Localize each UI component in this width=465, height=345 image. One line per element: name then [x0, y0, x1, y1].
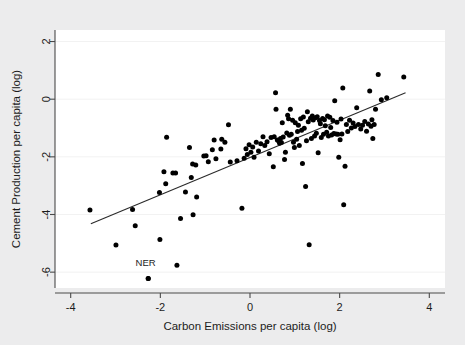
- data-point: [274, 107, 279, 112]
- data-point: [373, 107, 378, 112]
- x-axis-title: Carbon Emissions per capita (log): [163, 320, 336, 332]
- data-point: [379, 97, 384, 102]
- plot-area-background: [55, 30, 445, 288]
- data-point: [254, 140, 259, 145]
- data-point: [194, 194, 199, 199]
- data-point: [163, 181, 168, 186]
- data-point: [248, 150, 253, 155]
- data-point: [332, 98, 337, 103]
- x-axis-ticks: [71, 293, 430, 298]
- data-point: [222, 140, 227, 145]
- chart-figure: 20-2-4-6 -4-2024 NER Carbon Emissions pe…: [0, 0, 465, 345]
- data-point: [133, 223, 138, 228]
- data-point: [339, 132, 344, 137]
- data-point: [178, 216, 183, 221]
- data-point: [323, 123, 328, 128]
- data-point: [344, 122, 349, 127]
- data-point: [164, 135, 169, 140]
- data-point: [305, 109, 310, 114]
- data-point: [367, 89, 372, 94]
- data-point: [157, 237, 162, 242]
- data-point: [300, 161, 305, 166]
- data-point: [370, 136, 375, 141]
- data-point: [345, 129, 350, 134]
- data-point: [354, 105, 359, 110]
- data-point: [218, 147, 223, 152]
- data-point: [173, 170, 178, 175]
- data-point: [187, 145, 192, 150]
- data-point: [292, 145, 297, 150]
- data-point: [340, 85, 345, 90]
- y-axis-tick-labels: 20-2-4-6: [40, 38, 52, 277]
- y-tick-label: 0: [40, 96, 52, 102]
- data-point: [210, 147, 215, 152]
- data-point: [280, 120, 285, 125]
- data-point: [271, 164, 276, 169]
- data-point: [301, 115, 306, 120]
- x-tick-label: -4: [66, 301, 76, 313]
- data-point: [328, 125, 333, 130]
- y-tick-label: -4: [40, 210, 52, 220]
- data-point: [376, 72, 381, 77]
- data-point: [314, 131, 319, 136]
- data-point: [297, 143, 302, 148]
- data-point: [341, 202, 346, 207]
- data-point: [282, 157, 287, 162]
- y-tick-label: -6: [40, 267, 52, 277]
- data-point: [183, 190, 188, 195]
- x-axis-tick-labels: -4-2024: [66, 301, 433, 313]
- data-point: [294, 137, 299, 142]
- data-point: [339, 117, 344, 122]
- data-point: [261, 134, 266, 139]
- data-point: [157, 190, 162, 195]
- data-point: [226, 122, 231, 127]
- data-point: [304, 138, 309, 143]
- x-tick-label: -2: [155, 301, 165, 313]
- data-point: [161, 169, 166, 174]
- data-point: [252, 155, 257, 160]
- y-axis-title: Cement Production per capita (log): [10, 70, 22, 249]
- data-point: [302, 126, 307, 131]
- data-point: [113, 243, 118, 248]
- data-point: [279, 140, 284, 145]
- data-point: [401, 74, 406, 79]
- data-point: [235, 158, 240, 163]
- scatter-plot: 20-2-4-6 -4-2024 NER Carbon Emissions pe…: [0, 0, 465, 345]
- data-point: [316, 150, 321, 155]
- data-point: [212, 138, 217, 143]
- data-point: [204, 153, 209, 158]
- data-point: [303, 184, 308, 189]
- data-point: [243, 146, 248, 151]
- data-point: [338, 137, 343, 142]
- data-point: [369, 117, 374, 122]
- y-tick-label: -2: [40, 152, 52, 162]
- x-tick-label: 4: [426, 301, 432, 313]
- data-point: [273, 90, 278, 95]
- data-point: [336, 155, 341, 160]
- data-point: [384, 95, 389, 100]
- data-point: [87, 207, 92, 212]
- data-point: [296, 123, 301, 128]
- x-tick-label: 2: [337, 301, 343, 313]
- data-point: [289, 132, 294, 137]
- annotated-data-point: [146, 276, 151, 281]
- data-point: [206, 159, 211, 164]
- data-point: [265, 139, 270, 144]
- y-tick-label: 2: [40, 38, 52, 44]
- data-point: [239, 206, 244, 211]
- data-point: [191, 212, 196, 217]
- data-point: [189, 175, 194, 180]
- data-point: [193, 162, 198, 167]
- x-tick-label: 0: [247, 301, 253, 313]
- data-point: [288, 107, 293, 112]
- data-point: [343, 164, 348, 169]
- data-point: [213, 156, 218, 161]
- data-point: [130, 207, 135, 212]
- data-point: [283, 150, 288, 155]
- data-point: [307, 242, 312, 247]
- data-point: [267, 151, 272, 156]
- data-point: [281, 134, 286, 139]
- data-point: [228, 160, 233, 165]
- data-point: [334, 120, 339, 125]
- data-point: [372, 122, 377, 127]
